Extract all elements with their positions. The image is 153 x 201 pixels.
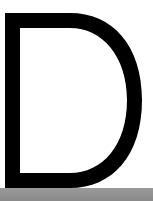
floor-band — [0, 188, 153, 201]
letter-d-glyph — [0, 0, 153, 201]
